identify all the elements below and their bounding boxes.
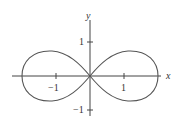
- x-tick-label-neg1: −1: [48, 82, 59, 93]
- x-tick-label-pos1: 1: [121, 82, 126, 93]
- chart-canvas: x y −1 1 1 −1: [0, 0, 181, 122]
- y-axis-label: y: [85, 10, 91, 21]
- y-tick-label-neg1: −1: [73, 104, 84, 115]
- x-axis-label: x: [165, 70, 171, 81]
- y-tick-label-pos1: 1: [79, 36, 84, 47]
